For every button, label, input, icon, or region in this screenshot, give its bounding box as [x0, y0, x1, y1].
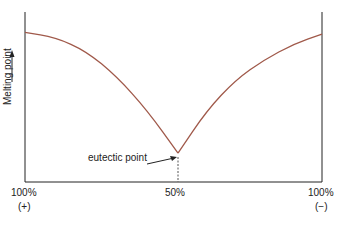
left-liquidus-curve: [25, 32, 178, 153]
x-label-mid-pct: 50%: [165, 187, 185, 198]
arrow-head-icon: [170, 156, 177, 161]
x-label-left-pct: 100%: [11, 187, 37, 198]
eutectic-arrow: [147, 158, 174, 164]
x-label-right-pct: 100%: [308, 187, 334, 198]
y-axis-label: Melting point: [2, 48, 13, 105]
right-liquidus-curve: [178, 34, 322, 153]
eutectic-label: eutectic point: [88, 152, 147, 163]
x-label-right-sign: (−): [315, 201, 328, 212]
x-label-left-sign: (+): [18, 201, 31, 212]
